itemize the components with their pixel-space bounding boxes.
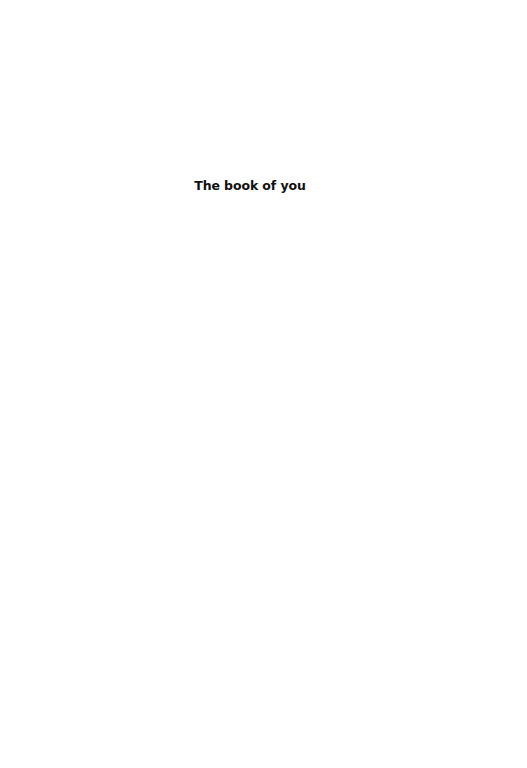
half-title: The book of you <box>0 177 500 195</box>
book-page: The book of you <box>0 0 527 768</box>
